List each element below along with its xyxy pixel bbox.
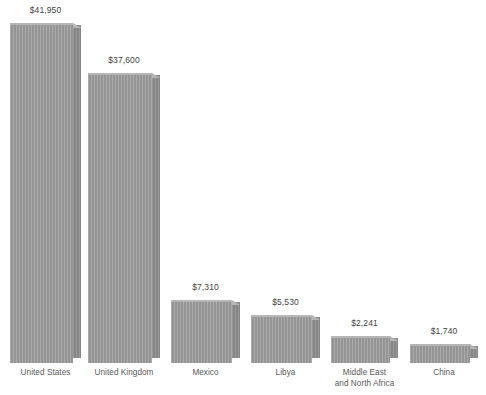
value-label-mexico: $7,310 — [151, 282, 260, 292]
bar-front-face — [88, 75, 152, 363]
value-label-united-kingdom: $37,600 — [68, 55, 180, 65]
bar-front-face — [171, 302, 232, 363]
bar-libya[interactable] — [251, 312, 320, 363]
bar-mexico[interactable] — [171, 297, 240, 363]
bar-front-face — [251, 317, 312, 363]
bar-front-face — [410, 346, 470, 363]
value-label-libya: $5,530 — [231, 297, 340, 307]
bar-side-face — [390, 338, 398, 358]
value-label-china: $1,740 — [390, 326, 486, 336]
bar-chart: $41,950United States$37,600United Kingdo… — [0, 0, 486, 395]
bar-china[interactable] — [410, 341, 478, 363]
bar-front-face — [331, 338, 390, 363]
bar-side-face — [152, 75, 160, 358]
category-label-china: China — [390, 367, 486, 378]
plot-area: $41,950United States$37,600United Kingdo… — [0, 0, 486, 395]
bar-united-kingdom[interactable] — [88, 70, 160, 363]
bar-side-face — [232, 302, 240, 358]
bar-front-face — [10, 25, 73, 363]
bar-side-face — [73, 25, 81, 358]
bar-united-states[interactable] — [10, 20, 81, 363]
bar-middle-east-and-north-africa[interactable] — [331, 333, 398, 363]
value-label-united-states: $41,950 — [0, 5, 101, 15]
